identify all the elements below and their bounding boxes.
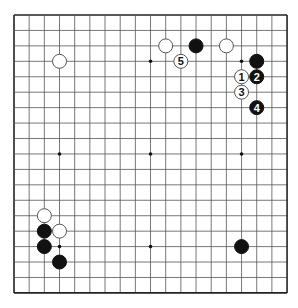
white-stone xyxy=(37,209,51,223)
star-point xyxy=(240,152,244,156)
star-point xyxy=(58,245,62,249)
stone-circle xyxy=(37,224,51,238)
white-stone xyxy=(159,39,173,53)
move-number-label: 4 xyxy=(254,102,261,114)
stone-circle xyxy=(189,39,203,53)
stone-circle xyxy=(37,240,51,254)
move-number-label: 3 xyxy=(238,86,244,98)
star-point xyxy=(149,60,153,64)
black-stone xyxy=(37,224,51,238)
black-stone xyxy=(37,240,51,254)
black-stone-move-2: 2 xyxy=(250,70,264,84)
white-stone xyxy=(53,54,67,68)
stone-circle xyxy=(37,209,51,223)
white-stone-move-1: 1 xyxy=(235,70,249,84)
star-point xyxy=(149,245,153,249)
stone-circle xyxy=(159,39,173,53)
white-stone-move-3: 3 xyxy=(235,85,249,99)
stone-circle xyxy=(219,39,233,53)
move-number-label: 2 xyxy=(254,71,260,83)
black-stone xyxy=(250,54,264,68)
move-number-label: 1 xyxy=(238,71,244,83)
stone-circle xyxy=(235,240,249,254)
stone-circle xyxy=(250,54,264,68)
star-point xyxy=(58,152,62,156)
black-stone xyxy=(53,255,67,269)
stone-circle xyxy=(53,224,67,238)
stone-circle xyxy=(53,255,67,269)
black-stone-move-4: 4 xyxy=(250,101,264,115)
white-stone xyxy=(53,224,67,238)
star-point xyxy=(240,60,244,64)
stone-circle xyxy=(53,54,67,68)
move-number-label: 5 xyxy=(178,55,184,67)
black-stone xyxy=(189,39,203,53)
star-point xyxy=(149,152,153,156)
go-board: 12345 xyxy=(0,0,298,308)
white-stone-move-5: 5 xyxy=(174,54,188,68)
white-stone xyxy=(219,39,233,53)
black-stone xyxy=(235,240,249,254)
